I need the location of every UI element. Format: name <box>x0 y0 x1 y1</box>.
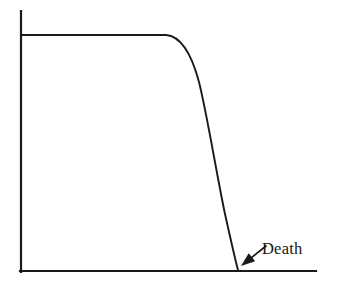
chart-canvas: Death <box>0 0 341 287</box>
death-annotation-label: Death <box>262 239 303 258</box>
survival-curve-figure: Death <box>0 0 341 287</box>
